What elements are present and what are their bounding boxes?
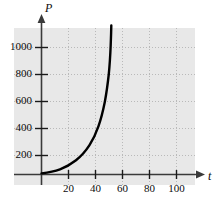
y-axis-label-P: P: [45, 2, 52, 14]
figure-container: 1000 800 600 400 200 20 40 60 80 100 P t: [0, 0, 218, 203]
y-tick-label-1000: 1000: [0, 41, 32, 52]
x-tick-label-100: 100: [162, 183, 191, 194]
grid-vertical: [69, 28, 177, 185]
x-axis-label-t: t: [208, 170, 211, 182]
data-curve-P: [42, 26, 112, 174]
y-tick-label-800: 800: [0, 68, 32, 79]
x-tick-label-40: 40: [81, 183, 110, 194]
plot-svg: [0, 0, 218, 203]
x-tick-label-80: 80: [135, 183, 164, 194]
y-tick-label-200: 200: [0, 149, 32, 160]
x-tick-label-60: 60: [108, 183, 137, 194]
y-tick-label-400: 400: [0, 122, 32, 133]
x-tick-label-20: 20: [54, 183, 83, 194]
y-axis: [38, 14, 46, 185]
y-tick-label-600: 600: [0, 95, 32, 106]
